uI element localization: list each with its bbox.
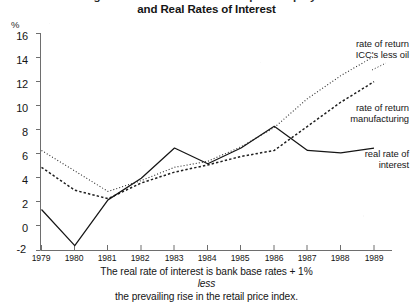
y-tick-marks — [36, 34, 41, 251]
footnote-line-2: the prevailing rise in the retail price … — [0, 291, 413, 303]
series-line-real-rate-of-interest — [42, 126, 375, 245]
legend-real-line-1: real rate of — [365, 148, 409, 159]
legend-label-manufacturing: rate of return manufacturing — [350, 102, 409, 124]
series-line-manufacturing — [42, 82, 375, 199]
legend-icc-line-2: ICC's less oil — [356, 49, 409, 60]
footnote-line-1: The real rate of interest is bank base r… — [0, 266, 413, 291]
legend-label-real-rate: real rate of interest — [365, 148, 409, 170]
footnote: The real rate of interest is bank base r… — [0, 266, 413, 303]
x-tick-marks — [42, 245, 375, 251]
series-line-icc-less-oil — [42, 56, 375, 191]
legend-label-icc-less-oil: rate of return ICC's less oil — [356, 38, 409, 60]
legend-real-line-2: interest — [365, 159, 409, 170]
legend-mfg-line-2: manufacturing — [350, 113, 409, 124]
footnote-line-1-text: The real rate of interest is bank base r… — [0, 266, 413, 278]
legend-leader-icc — [372, 63, 386, 70]
footnote-emphasis-less: less — [198, 278, 216, 289]
legend-icc-line-1: rate of return — [356, 38, 409, 49]
legend-mfg-line-1: rate of return — [350, 102, 409, 113]
